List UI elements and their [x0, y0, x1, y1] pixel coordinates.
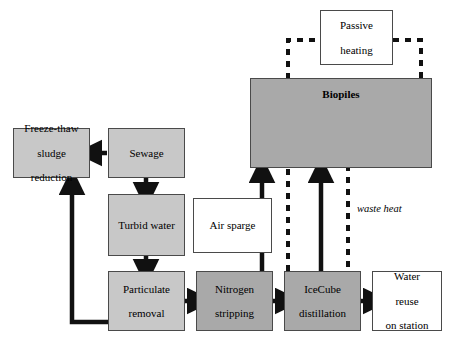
particulate-line-1: Particulate: [121, 283, 172, 295]
node-water-reuse-label: Water reuse on station: [381, 270, 432, 332]
passive-line-1: Passive: [338, 19, 375, 31]
node-freeze-thaw-label: Freeze-thaw sludge reduction: [20, 122, 82, 184]
edge-label-waste-heat: waste heat: [357, 203, 402, 214]
passive-line-2: heating: [338, 44, 375, 56]
node-icecube-distillation[interactable]: IceCube distillation: [284, 271, 361, 331]
node-nitrogen-label: Nitrogen stripping: [211, 283, 258, 320]
node-water-reuse-on-station[interactable]: Water reuse on station: [372, 271, 442, 331]
freeze-line-2: sludge: [22, 147, 80, 159]
node-sewage[interactable]: Sewage: [108, 128, 185, 178]
edge-particulate-to-freeze-thaw: [72, 190, 108, 322]
node-passive-heating[interactable]: Passive heating: [320, 10, 393, 65]
node-freeze-thaw-sludge-reduction[interactable]: Freeze-thaw sludge reduction: [13, 128, 90, 178]
node-nitrogen-stripping[interactable]: Nitrogen stripping: [196, 271, 273, 331]
node-icecube-label: IceCube distillation: [295, 283, 350, 320]
node-particulate-removal[interactable]: Particulate removal: [108, 271, 185, 331]
nitrogen-line-2: stripping: [213, 307, 256, 319]
water-reuse-line-2: reuse: [383, 295, 430, 307]
node-particulate-label: Particulate removal: [119, 283, 174, 320]
process-flow-diagram: Biopiles Passive heating Freeze-thaw slu…: [0, 0, 455, 339]
water-reuse-line-1: Water: [383, 270, 430, 282]
node-turbid-water-label: Turbid water: [116, 219, 177, 231]
freeze-line-3: reduction: [22, 171, 80, 183]
node-sewage-label: Sewage: [127, 147, 165, 159]
water-reuse-line-3: on station: [383, 319, 430, 331]
node-passive-heating-label: Passive heating: [336, 19, 377, 56]
node-air-sparge-label: Air sparge: [208, 219, 258, 231]
node-turbid-water[interactable]: Turbid water: [108, 194, 185, 256]
freeze-line-1: Freeze-thaw: [22, 122, 80, 134]
particulate-line-2: removal: [121, 307, 172, 319]
node-air-sparge[interactable]: Air sparge: [193, 198, 272, 253]
nitrogen-line-1: Nitrogen: [213, 283, 256, 295]
icecube-line-1: IceCube: [297, 283, 348, 295]
node-biopiles[interactable]: Biopiles: [250, 78, 432, 168]
icecube-line-2: distillation: [297, 307, 348, 319]
node-biopiles-label: Biopiles: [320, 88, 361, 100]
